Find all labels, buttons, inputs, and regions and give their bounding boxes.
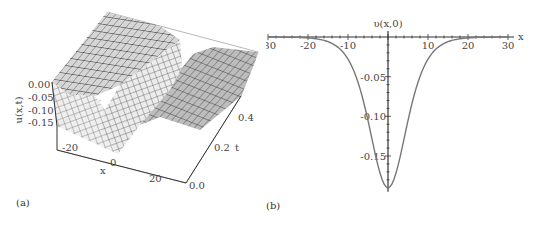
x-axis-label: x xyxy=(518,31,524,42)
z-axis-label: u(x,t) xyxy=(13,96,24,123)
panel-label-b: (b) xyxy=(266,200,280,211)
z-tick: 0.00 xyxy=(28,79,50,90)
y-tick-label: -0.05 xyxy=(360,72,386,83)
x-tick: 20 xyxy=(149,173,162,184)
surface-plot: 0.00 -0.05 -0.10 -0.15 u(x,t) -20 0 20 x… xyxy=(0,0,270,225)
surface-plot-panel: 0.00 -0.05 -0.10 -0.15 u(x,t) -20 0 20 x… xyxy=(0,0,270,225)
y-axis-label: υ(x,0) xyxy=(373,18,402,29)
x-tick-label: -30 xyxy=(266,40,276,51)
z-tick: -0.15 xyxy=(28,117,54,128)
line-plot-panel: -30-20-10102030-0.05-0.10-0.15xυ(x,0) (b… xyxy=(266,0,536,225)
x-tick-label: 30 xyxy=(502,40,515,51)
t-tick: 0.4 xyxy=(238,112,254,123)
x-tick: 0 xyxy=(110,157,116,168)
z-tick: -0.05 xyxy=(28,92,54,103)
x-tick-label: -20 xyxy=(300,40,316,51)
t-tick: 0.2 xyxy=(214,142,230,153)
x-tick-label: 10 xyxy=(422,40,435,51)
y-tick-label: -0.10 xyxy=(360,111,386,122)
y-tick-label: -0.15 xyxy=(360,151,386,162)
panel-label-a: (a) xyxy=(16,197,30,208)
x-tick: -20 xyxy=(62,142,78,153)
line-plot: -30-20-10102030-0.05-0.10-0.15xυ(x,0) xyxy=(266,0,536,225)
x-tick-label: -10 xyxy=(340,40,356,51)
t-tick: 0.0 xyxy=(189,180,205,191)
x-axis-label: x xyxy=(100,165,106,176)
z-axis: 0.00 -0.05 -0.10 -0.15 u(x,t) xyxy=(13,79,54,128)
t-axis-label: t xyxy=(235,142,239,153)
x-tick-label: 20 xyxy=(462,40,475,51)
z-tick: -0.10 xyxy=(28,105,54,116)
